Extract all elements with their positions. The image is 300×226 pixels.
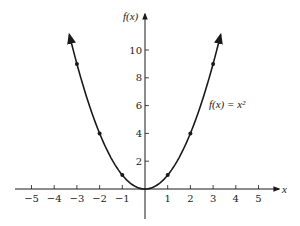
data-point (188, 131, 192, 135)
function-label: f(x) = x² (209, 98, 246, 111)
data-point (211, 62, 215, 66)
x-ticks: −5−4−3−2−112345 (24, 185, 262, 204)
x-tick-label: −1 (115, 193, 130, 204)
x-tick-label: −5 (24, 193, 39, 204)
data-point (120, 173, 124, 177)
x-tick-label: 2 (187, 193, 193, 204)
x-tick-label: 4 (233, 193, 239, 204)
x-tick-label: 5 (255, 193, 261, 204)
y-tick-label: 4 (136, 128, 142, 139)
x-tick-label: 3 (210, 193, 216, 204)
data-point (75, 62, 79, 66)
parabola-chart: x f(x) −5−4−3−2−112345 246810 f(x) = x² (0, 0, 300, 226)
x-tick-label: −4 (47, 193, 62, 204)
x-tick-label: −2 (92, 193, 107, 204)
y-tick-label: 8 (136, 72, 142, 83)
x-tick-label: 1 (165, 193, 171, 204)
y-tick-label: 6 (136, 100, 142, 111)
y-tick-label: 2 (136, 156, 142, 167)
x-axis-label: x (281, 183, 287, 195)
data-point (98, 131, 102, 135)
y-tick-label: 10 (129, 45, 142, 56)
y-axis-label: f(x) (123, 10, 139, 23)
y-ticks: 246810 (129, 45, 149, 167)
x-tick-label: −3 (70, 193, 85, 204)
data-point (166, 173, 170, 177)
